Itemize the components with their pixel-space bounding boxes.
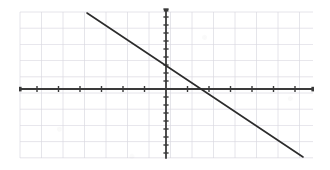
graph-figure (0, 0, 330, 170)
x-axis-left-arrow-icon (19, 87, 22, 92)
x-axis-right-arrow-icon (311, 87, 314, 92)
coordinate-plane-svg (0, 0, 330, 170)
